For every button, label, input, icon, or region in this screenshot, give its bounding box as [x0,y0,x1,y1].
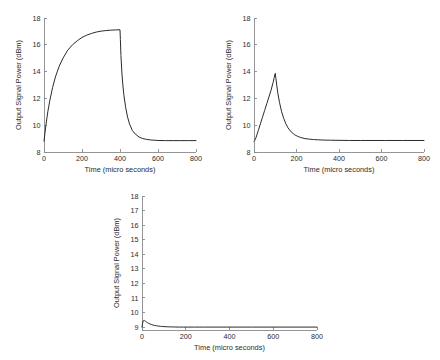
figure-canvas: 020040060080081012141618Time (micro seco… [0,0,440,360]
plot-1-labels: 020040060080081012141618Time (micro seco… [14,14,202,174]
x-tick-label: 800 [418,154,430,163]
plot-3-axes [142,196,317,330]
plot-3-labels: 02004006008009101112131415161718Time (mi… [112,192,323,352]
plot-3-curves [142,320,317,327]
x-tick-label: 600 [267,332,279,341]
x-tick-label: 400 [114,154,126,163]
y-tick-label: 18 [131,192,139,201]
data-curve [254,73,424,141]
plot-2-svg: 020040060080081012141618Time (micro seco… [212,4,440,180]
y-tick-label: 8 [37,148,41,157]
y-tick-label: 13 [131,264,139,273]
x-axis-title: Time (micro seconds) [85,165,156,174]
x-tick-label: 600 [152,154,164,163]
x-tick-label: 0 [252,154,256,163]
data-curve [44,30,196,141]
x-tick-label: 0 [42,154,46,163]
chart-panel-1: 020040060080081012141618Time (micro seco… [0,4,212,180]
y-tick-label: 16 [33,40,41,49]
plot-1-svg: 020040060080081012141618Time (micro seco… [0,4,212,180]
y-tick-label: 11 [131,294,138,303]
y-tick-label: 14 [33,67,41,76]
x-tick-label: 200 [291,154,303,163]
y-tick-label: 14 [243,67,251,76]
y-tick-label: 12 [243,94,251,103]
y-tick-label: 12 [131,279,139,288]
x-tick-label: 800 [190,154,202,163]
y-tick-label: 17 [131,206,139,215]
y-tick-label: 16 [131,221,139,230]
x-tick-label: 600 [376,154,388,163]
x-tick-label: 200 [180,332,192,341]
y-tick-label: 16 [243,40,251,49]
y-tick-label: 15 [131,235,139,244]
chart-panel-3: 02004006008009101112131415161718Time (mi… [100,182,340,360]
x-tick-label: 400 [224,332,236,341]
plot-2-labels: 020040060080081012141618Time (micro seco… [224,14,430,174]
plot-3-svg: 02004006008009101112131415161718Time (mi… [100,182,340,360]
y-axis-title: Output Signal Power (dBm) [14,40,23,130]
x-tick-label: 200 [76,154,88,163]
plot-1-curves [44,30,196,141]
y-tick-label: 10 [33,121,41,130]
y-tick-label: 18 [243,14,251,23]
y-tick-label: 18 [33,14,41,23]
y-tick-label: 8 [247,148,251,157]
y-axis-title: Output Signal Power (dBm) [112,218,121,308]
x-tick-label: 400 [333,154,345,163]
x-tick-label: 0 [140,332,144,341]
y-tick-label: 10 [131,308,139,317]
chart-panel-2: 020040060080081012141618Time (micro seco… [212,4,440,180]
data-curve [142,320,317,327]
y-tick-label: 12 [33,94,41,103]
x-tick-label: 800 [311,332,323,341]
plot-2-axes [254,18,424,152]
x-axis-title: Time (micro seconds) [304,165,375,174]
y-tick-label: 10 [243,121,251,130]
plot-2-curves [254,73,424,141]
x-axis-title: Time (micro seconds) [194,343,265,352]
plot-2-axis-spine [254,18,424,152]
y-tick-label: 9 [135,323,139,332]
y-axis-title: Output Signal Power (dBm) [224,40,233,130]
y-tick-label: 14 [131,250,139,259]
plot-3-axis-spine [142,196,317,330]
